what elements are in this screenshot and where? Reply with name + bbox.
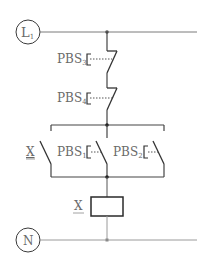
x-contact-label: X (26, 145, 35, 159)
pbs1-label: PBS1 (57, 145, 87, 160)
nc-contact-blade (107, 88, 117, 110)
pbs4-switch: PBS4 (57, 88, 117, 110)
junction-dot (106, 239, 109, 242)
pbs3-label: PBS3 (57, 52, 87, 67)
nc-contact-blade (107, 51, 117, 73)
no-contact-blade (40, 141, 51, 164)
pbs4-label: PBS4 (57, 91, 87, 106)
pushbutton-bracket-icon (87, 146, 91, 158)
pbs1-switch: PBS1 (57, 141, 107, 177)
line-terminal-label: L1 (21, 25, 34, 41)
pushbutton-bracket-icon (144, 146, 148, 158)
coil-box (91, 197, 123, 216)
ladder-diagram: L1 PBS3 PBS4 X (0, 0, 213, 266)
pbs3-switch: PBS3 (57, 51, 117, 88)
x-holding-contact: X (26, 141, 51, 177)
pbs2-switch: PBS2 (113, 141, 164, 177)
pbs2-label: PBS2 (113, 145, 143, 160)
x-relay-coil: X (73, 197, 123, 216)
parallel-branch: X PBS1 PBS2 (26, 123, 164, 179)
x-coil-label: X (74, 199, 83, 213)
neutral-terminal-label: N (23, 234, 34, 248)
